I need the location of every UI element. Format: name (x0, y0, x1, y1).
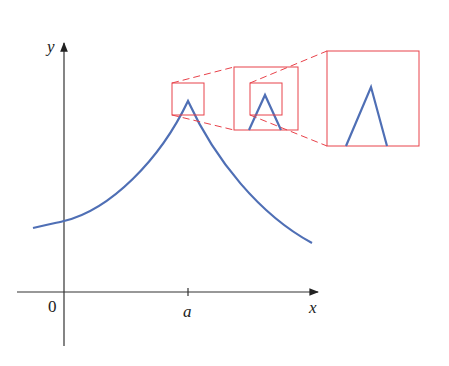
connector-lines-1 (172, 67, 234, 130)
connector-lines-2 (250, 51, 327, 146)
cusp-diagram: y x 0 a (0, 0, 449, 366)
middle-box-curve (249, 95, 281, 130)
large-box-curve (346, 87, 387, 146)
function-curve (33, 101, 312, 243)
x-axis-label: x (308, 298, 317, 317)
y-axis-label: y (45, 37, 55, 56)
tick-a-label: a (183, 302, 192, 321)
origin-label: 0 (48, 297, 57, 316)
axes (17, 43, 318, 346)
